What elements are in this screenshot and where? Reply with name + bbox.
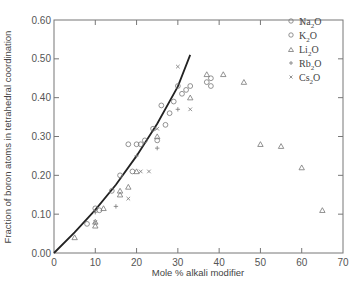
circle-marker-icon <box>171 99 176 104</box>
y-tick-label: 0.20 <box>32 170 52 181</box>
plus-marker-icon <box>114 204 118 208</box>
x-marker-icon <box>290 76 293 79</box>
x-tick-label: 20 <box>131 257 143 268</box>
legend: Na2O K2O Li2O Rb2O Cs2O <box>289 16 322 86</box>
legend-item-rb2o: Rb2O <box>289 58 321 72</box>
triangle-marker-icon <box>204 72 209 77</box>
y-axis-ticks: 0.000.100.200.300.400.500.60 <box>32 15 343 259</box>
circle-marker-icon <box>85 221 90 226</box>
svg-text:Na2O: Na2O <box>299 16 321 30</box>
plus-marker-icon <box>289 61 293 65</box>
x-axis-title: Mole % alkali modifier <box>152 267 244 278</box>
triangle-marker-icon <box>72 235 77 240</box>
x-marker-icon <box>139 170 143 174</box>
circle-marker-icon <box>126 142 131 147</box>
x-marker-icon <box>188 108 192 112</box>
x-tick-label: 50 <box>255 257 267 268</box>
svg-text:Li2O: Li2O <box>299 44 319 58</box>
triangle-marker-icon <box>258 142 263 147</box>
circle-marker-icon <box>289 33 293 37</box>
circle-marker-icon <box>184 88 189 93</box>
triangle-marker-icon <box>126 184 131 189</box>
y-tick-label: 0.40 <box>32 92 52 103</box>
triangle-marker-icon <box>101 206 106 211</box>
triangle-marker-icon <box>289 48 294 52</box>
y-tick-label: 0.10 <box>32 209 52 220</box>
triangle-marker-icon <box>320 208 325 213</box>
svg-text:K2O: K2O <box>299 30 317 44</box>
triangle-marker-icon <box>299 165 304 170</box>
legend-item-k2o: K2O <box>289 30 317 44</box>
x-marker-icon <box>155 127 159 131</box>
x-tick-label: 60 <box>296 257 308 268</box>
x-tick-label: 10 <box>90 257 102 268</box>
legend-item-na2o: Na2O <box>289 16 322 30</box>
y-tick-label: 0.60 <box>32 15 52 26</box>
triangle-marker-icon <box>241 80 246 85</box>
circle-marker-icon <box>167 111 172 116</box>
plus-marker-icon <box>176 107 180 111</box>
data-points <box>72 65 325 240</box>
circle-marker-icon <box>204 80 209 85</box>
triangle-marker-icon <box>188 95 193 100</box>
y-tick-label: 0.00 <box>32 248 52 259</box>
x-marker-icon <box>176 65 180 69</box>
y-axis-title: Fraction of boron atoms in tetrahedral c… <box>2 31 13 244</box>
circle-marker-icon <box>159 103 164 108</box>
svg-text:Rb2O: Rb2O <box>299 58 321 72</box>
svg-text:Cs2O: Cs2O <box>299 72 320 86</box>
circle-marker-icon <box>289 19 293 23</box>
circle-marker-icon <box>180 91 185 96</box>
legend-item-li2o: Li2O <box>289 44 319 58</box>
circle-marker-icon <box>188 84 193 89</box>
legend-item-cs2o: Cs2O <box>290 72 321 86</box>
x-marker-icon <box>127 197 131 201</box>
y-tick-label: 0.50 <box>32 53 52 64</box>
x-tick-label: 70 <box>337 257 349 268</box>
triangle-marker-icon <box>221 72 226 77</box>
plus-marker-icon <box>155 146 159 150</box>
theoretical-curve <box>54 55 190 253</box>
circle-marker-icon <box>163 122 168 127</box>
triangle-marker-icon <box>278 144 283 149</box>
x-marker-icon <box>147 170 151 174</box>
x-tick-label: 0 <box>51 257 57 268</box>
y-tick-label: 0.30 <box>32 131 52 142</box>
chart: 010203040506070 0.000.100.200.300.400.50… <box>0 0 363 292</box>
circle-marker-icon <box>208 84 213 89</box>
